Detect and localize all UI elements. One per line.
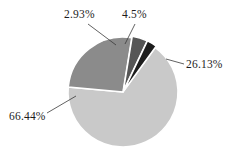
pie-label-26-13: 26.13% <box>186 58 223 70</box>
pie-chart-canvas <box>0 0 235 154</box>
pie-chart-figure: 2.93% 4.5% 26.13% 66.44% <box>0 0 235 154</box>
pie-label-66-44: 66.44% <box>9 110 46 122</box>
pie-label-2-93: 2.93% <box>64 8 95 20</box>
pie-slice-26-13 <box>68 37 132 92</box>
pie-label-4-5: 4.5% <box>122 8 147 20</box>
